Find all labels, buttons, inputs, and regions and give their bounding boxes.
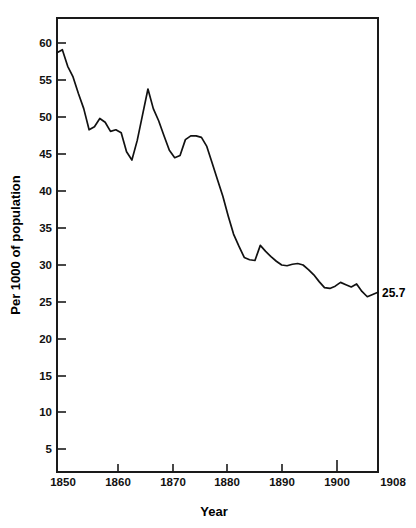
y-tick-label-55: 55 — [39, 74, 52, 86]
x-axis-title: Year — [200, 504, 227, 519]
x-axis-tick-labels: 1850 1860 1870 1880 1890 1900 1908 — [50, 476, 406, 488]
y-tick-label-45: 45 — [39, 148, 52, 160]
chart-figure: 60 55 50 45 40 35 30 25 20 15 10 5 1850 … — [0, 0, 416, 528]
x-axis-ticks — [118, 460, 337, 472]
y-tick-label-35: 35 — [39, 222, 52, 234]
y-tick-label-5: 5 — [46, 443, 53, 455]
x-tick-label-1860: 1860 — [105, 476, 131, 488]
y-tick-label-20: 20 — [39, 333, 52, 345]
x-tick-label-1908: 1908 — [380, 476, 406, 488]
y-tick-label-60: 60 — [39, 37, 52, 49]
chart-canvas: 60 55 50 45 40 35 30 25 20 15 10 5 1850 … — [0, 0, 416, 528]
y-tick-label-30: 30 — [39, 259, 52, 271]
x-tick-label-1880: 1880 — [214, 476, 240, 488]
y-tick-label-40: 40 — [39, 185, 52, 197]
data-series-line — [57, 50, 378, 297]
y-axis-ticks — [57, 43, 66, 449]
plot-frame — [57, 18, 378, 472]
y-tick-label-25: 25 — [39, 296, 52, 308]
x-tick-label-1870: 1870 — [160, 476, 186, 488]
x-tick-label-1900: 1900 — [324, 476, 350, 488]
y-tick-label-50: 50 — [39, 111, 52, 123]
y-axis-title: Per 1000 of population — [8, 175, 23, 314]
end-value-annotation: 25.7 — [382, 286, 406, 300]
x-tick-label-1850: 1850 — [50, 476, 76, 488]
y-tick-label-15: 15 — [39, 370, 52, 382]
y-tick-label-10: 10 — [39, 406, 52, 418]
x-tick-label-1890: 1890 — [269, 476, 295, 488]
y-axis-tick-labels: 60 55 50 45 40 35 30 25 20 15 10 5 — [39, 37, 52, 455]
